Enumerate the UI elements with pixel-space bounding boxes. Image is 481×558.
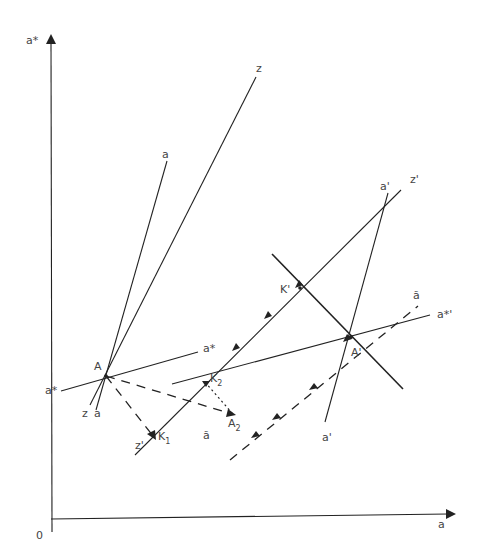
arrow-icon bbox=[232, 343, 240, 351]
label-A2: A2 bbox=[228, 417, 241, 433]
origin-label: 0 bbox=[36, 529, 43, 542]
point-A-prime bbox=[349, 335, 353, 339]
label-A-prime: A' bbox=[351, 346, 362, 359]
label-a-prime-bottom: a' bbox=[322, 431, 332, 444]
label-z-top: z bbox=[256, 62, 262, 75]
label-a-star-left: a* bbox=[45, 384, 58, 397]
y-axis bbox=[46, 34, 56, 532]
line-a-star bbox=[61, 352, 198, 391]
label-a-star-prime: a*' bbox=[437, 308, 452, 321]
diagram-canvas: a* a 0 a z a* a* A z a z' K1 K2 A2 ã K' … bbox=[0, 0, 481, 558]
arrow-icon bbox=[264, 311, 272, 319]
label-A: A bbox=[94, 360, 102, 373]
point-K-prime bbox=[298, 286, 302, 290]
dashed-A-K1 bbox=[106, 376, 153, 436]
label-z-prime-top: z' bbox=[410, 173, 419, 186]
y-axis-label: a* bbox=[26, 34, 39, 47]
line-a-prime bbox=[325, 193, 388, 422]
label-z-bottom: z bbox=[82, 407, 88, 420]
label-a-star-right: a* bbox=[203, 342, 216, 355]
x-axis-arrow-icon bbox=[446, 509, 456, 519]
label-K-prime: K' bbox=[280, 283, 290, 296]
label-K1: K1 bbox=[158, 430, 170, 446]
line-normal bbox=[272, 254, 403, 389]
line-z bbox=[90, 77, 256, 405]
arrow-icon bbox=[226, 409, 236, 417]
label-a-tilde-bottom: ã bbox=[203, 429, 210, 442]
label-z-prime-bottom: z' bbox=[135, 439, 144, 452]
point-A bbox=[104, 374, 108, 378]
label-K2: K2 bbox=[210, 372, 222, 388]
line-z-prime bbox=[135, 190, 401, 455]
x-axis bbox=[51, 509, 456, 519]
label-a-bottom: a bbox=[94, 407, 101, 420]
x-axis-label: a bbox=[438, 518, 445, 531]
y-axis-arrow-icon bbox=[46, 34, 56, 44]
label-a-prime-top: a' bbox=[380, 180, 390, 193]
label-a-top: a bbox=[162, 148, 169, 161]
label-a-tilde-top: ã bbox=[413, 289, 420, 302]
